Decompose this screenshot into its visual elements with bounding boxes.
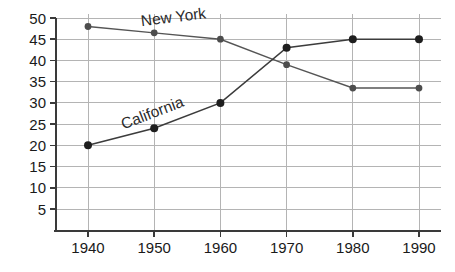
- x-tick-label: 1940: [71, 239, 104, 256]
- data-point-new-york: [85, 23, 92, 30]
- x-tick-label: 1950: [138, 239, 171, 256]
- data-point-new-york: [217, 36, 224, 43]
- y-tick-label: 25: [29, 116, 46, 133]
- y-tick-label: 30: [29, 94, 46, 111]
- y-tick-label: 50: [29, 10, 46, 27]
- data-point-new-york: [416, 85, 423, 92]
- series-line-new-york: [88, 26, 419, 88]
- data-point-new-york: [349, 85, 356, 92]
- y-axis-tick-labels: 5101520253035404550: [29, 10, 46, 218]
- series-markers: [84, 23, 423, 149]
- y-tick-label: 20: [29, 137, 46, 154]
- x-tick-label: 1960: [204, 239, 237, 256]
- y-tick-label: 15: [29, 158, 46, 175]
- data-point-new-york: [151, 29, 158, 36]
- y-tick-label: 5: [38, 201, 46, 218]
- series-line-california: [88, 39, 419, 145]
- y-tick-label: 10: [29, 179, 46, 196]
- data-point-california: [150, 124, 158, 132]
- x-axis-tick-labels: 194019501960197019801990: [71, 239, 435, 256]
- data-point-california: [349, 35, 357, 43]
- series-label-new-york: New York: [140, 4, 207, 29]
- data-point-california: [415, 35, 423, 43]
- series-label-group: New York: [140, 4, 207, 29]
- line-chart: 5101520253035404550 19401950196019701980…: [0, 0, 455, 272]
- x-tick-label: 1980: [336, 239, 369, 256]
- chart-canvas: 5101520253035404550 19401950196019701980…: [0, 0, 455, 272]
- data-point-california: [283, 44, 291, 52]
- data-point-california: [84, 141, 92, 149]
- data-point-california: [216, 99, 224, 107]
- series-lines: [88, 26, 419, 145]
- data-point-new-york: [283, 61, 290, 68]
- x-tick-label: 1990: [402, 239, 435, 256]
- y-tick-label: 40: [29, 52, 46, 69]
- y-tick-label: 35: [29, 73, 46, 90]
- horizontal-gridlines: [56, 18, 441, 209]
- x-tick-label: 1970: [270, 239, 303, 256]
- y-tick-label: 45: [29, 31, 46, 48]
